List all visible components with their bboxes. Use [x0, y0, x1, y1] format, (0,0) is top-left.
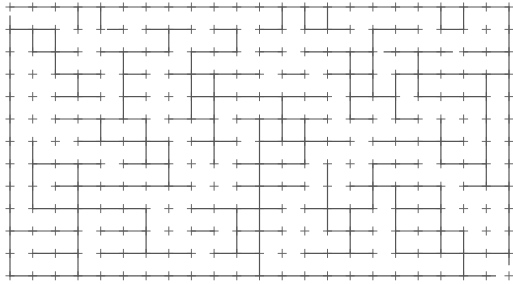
maze-canvas — [0, 0, 513, 284]
